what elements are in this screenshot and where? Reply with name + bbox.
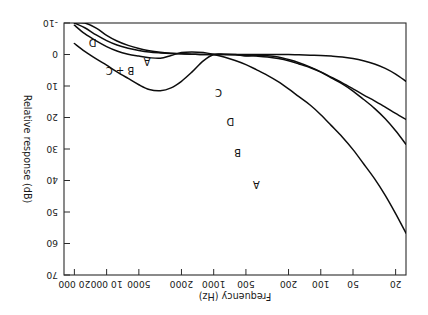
x-tick-label: 20 bbox=[390, 279, 402, 290]
data-curves bbox=[74, 23, 406, 233]
x-tick-label: 200 bbox=[280, 279, 298, 290]
chart-canvas: 205010020050010002000500010 00020 000 -1… bbox=[0, 0, 428, 315]
curve-d bbox=[74, 43, 406, 119]
y-axis-tick-labels: -10010203040506070 bbox=[43, 18, 58, 281]
curve-annotation: D bbox=[89, 37, 97, 48]
x-tick-label: 100 bbox=[312, 279, 330, 290]
y-axis-title: Relative response (dB) bbox=[22, 95, 33, 204]
x-axis-ticks bbox=[74, 269, 395, 275]
x-axis-tick-labels: 205010020050010002000500010 00020 000 bbox=[58, 279, 401, 290]
frequency-response-chart: 205010020050010002000500010 00020 000 -1… bbox=[0, 0, 428, 315]
x-tick-label: 5000 bbox=[127, 279, 151, 290]
curve-b bbox=[74, 23, 406, 145]
x-axis-title: Frequency (Hz) bbox=[199, 291, 271, 302]
y-tick-label: 30 bbox=[46, 144, 58, 155]
y-tick-label: 60 bbox=[46, 238, 58, 249]
x-tick-label: 10 000 bbox=[90, 279, 122, 290]
y-tick-label: 10 bbox=[46, 81, 58, 92]
y-tick-label: 40 bbox=[46, 175, 58, 186]
y-tick-label: -10 bbox=[43, 18, 58, 29]
curve-annotation: C bbox=[215, 87, 222, 98]
x-tick-label: 2000 bbox=[170, 279, 194, 290]
y-tick-label: 70 bbox=[46, 270, 58, 281]
x-tick-label: 20 000 bbox=[58, 279, 90, 290]
y-tick-label: 0 bbox=[52, 49, 58, 60]
curve-a bbox=[74, 25, 406, 233]
curve-annotation: A bbox=[143, 56, 150, 67]
curve-annotation: B bbox=[234, 147, 241, 158]
y-tick-label: 50 bbox=[46, 207, 58, 218]
x-tick-label: 1000 bbox=[202, 279, 226, 290]
curve-annotation: A bbox=[253, 179, 260, 190]
y-axis-ticks bbox=[64, 23, 70, 275]
y-tick-label: 20 bbox=[46, 112, 58, 123]
x-tick-label: 500 bbox=[237, 279, 255, 290]
x-tick-label: 50 bbox=[347, 279, 359, 290]
curve-annotation: D bbox=[226, 116, 234, 127]
curve-annotation: B + C bbox=[106, 65, 135, 76]
